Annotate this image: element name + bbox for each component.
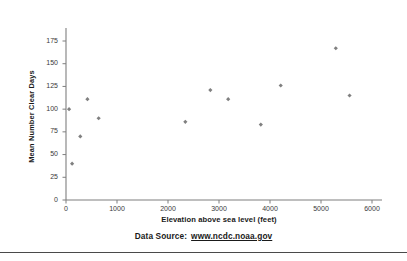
data-points <box>67 46 352 166</box>
y-tick-label: 150 <box>32 59 58 66</box>
data-point <box>67 107 71 111</box>
data-source-link[interactable]: www.ncdc.noaa.gov <box>191 231 272 241</box>
data-source-label: Data Source: <box>135 231 187 241</box>
data-point <box>226 97 230 101</box>
data-point <box>347 93 351 97</box>
y-tick-label: 125 <box>32 82 58 89</box>
y-tick-label: 0 <box>32 196 58 203</box>
y-axis-title: Mean Number Clear Days <box>27 37 36 197</box>
y-tick-label: 75 <box>32 127 58 134</box>
y-tick-label: 100 <box>32 105 58 112</box>
plot-canvas <box>0 0 407 228</box>
data-point <box>70 162 74 166</box>
data-point <box>334 46 338 50</box>
x-tick-label: 4000 <box>253 205 287 212</box>
x-axis-title: Elevation above sea level (feet) <box>66 215 372 224</box>
x-tick-label: 0 <box>49 205 83 212</box>
y-tick-label: 50 <box>32 150 58 157</box>
data-point <box>279 83 283 87</box>
data-point <box>85 97 89 101</box>
data-point <box>183 120 187 124</box>
chart-axes <box>66 28 382 200</box>
data-point <box>97 116 101 120</box>
x-tick-label: 3000 <box>202 205 236 212</box>
data-point <box>208 88 212 92</box>
x-tick-label: 2000 <box>151 205 185 212</box>
chart-tick-marks <box>63 41 373 204</box>
x-tick-label: 1000 <box>100 205 134 212</box>
data-source-footer: Data Source:www.ncdc.noaa.gov <box>0 231 407 241</box>
y-tick-label: 25 <box>32 173 58 180</box>
data-point <box>259 122 263 126</box>
footer-divider <box>0 252 407 253</box>
x-tick-label: 6000 <box>355 205 389 212</box>
data-point <box>78 134 82 138</box>
y-tick-label: 175 <box>32 37 58 44</box>
chart-page: 0255075100125150175 01000200030004000500… <box>0 0 407 261</box>
scatter-chart: 0255075100125150175 01000200030004000500… <box>0 0 407 228</box>
x-tick-label: 5000 <box>304 205 338 212</box>
